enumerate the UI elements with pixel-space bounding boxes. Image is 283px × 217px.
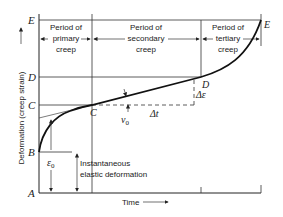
svg-text:primary: primary <box>53 34 80 43</box>
period-tertiary-label: Period of tertiary creep <box>212 23 245 54</box>
svg-text:creep: creep <box>136 45 157 54</box>
instantaneous-label-2: elastic deformation <box>80 170 147 179</box>
x-axis-title: Time <box>122 198 140 207</box>
period-secondary-label: Period of secondary creep <box>128 23 165 54</box>
delta-t-label: Δt <box>149 108 159 119</box>
delta-epsilon-label: Δε <box>195 89 206 100</box>
svg-text:creep: creep <box>56 45 77 54</box>
slope-arrow <box>124 89 126 96</box>
svg-text:Period of: Period of <box>212 23 245 32</box>
v0-label: v0 <box>121 114 129 127</box>
svg-text:Period of: Period of <box>50 23 83 32</box>
label-c-axis: C <box>28 99 36 111</box>
epsilon0-label: ε0 <box>47 157 55 170</box>
label-b: B <box>28 146 35 158</box>
svg-text:Period of: Period of <box>130 23 163 32</box>
label-e-axis: E <box>27 14 35 26</box>
label-e-curve: E <box>263 19 270 30</box>
label-c-curve: C <box>90 107 97 118</box>
label-a: A <box>27 187 35 199</box>
creep-curve-diagram: E D C B A C D E Period of primary creep … <box>0 0 283 217</box>
svg-text:secondary: secondary <box>128 34 165 43</box>
svg-text:tertiary: tertiary <box>216 34 240 43</box>
label-d-axis: D <box>27 71 36 83</box>
y-axis-title: Deformation (creep strain) <box>17 71 26 164</box>
period-primary-label: Period of primary creep <box>50 23 83 54</box>
svg-text:creep: creep <box>218 45 239 54</box>
instantaneous-label-1: Instantaneous <box>80 159 130 168</box>
